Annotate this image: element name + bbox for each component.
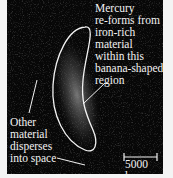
- simulation-image-panel: Mercury re-forms from iron-rich material…: [7, 0, 163, 174]
- dispersal-label: Other material disperses into space: [10, 116, 56, 164]
- banana-region-label: Mercury re-forms from iron-rich material…: [95, 2, 163, 86]
- scale-bar-label: 5000 km: [125, 158, 163, 174]
